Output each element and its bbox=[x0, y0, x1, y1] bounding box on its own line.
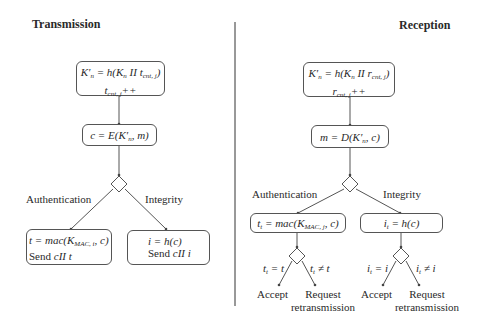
tx-hash-box: i = h(c) Send cII i bbox=[127, 230, 210, 265]
rx-auth-notequal-label: tt ≠ t bbox=[310, 262, 330, 276]
tx-mac-box: t = mac(KMAC, i, c) Send cII t bbox=[26, 229, 112, 265]
tx-encrypt-box: c = E(K′n, m) bbox=[82, 124, 157, 146]
rx-int-equal-label: it = i bbox=[367, 262, 388, 276]
rx-int-request-retransmission: Requestretransmission bbox=[392, 288, 462, 314]
rx-branch-authentication: Authentication bbox=[252, 188, 317, 200]
rx-int-notequal-label: it ≠ i bbox=[416, 262, 436, 276]
reception-title: Reception bbox=[399, 18, 450, 33]
rx-decrypt-box: m = D(K′n, c) bbox=[311, 125, 389, 148]
tx-key-derivation-box: K′n = h(Kn II tcnt, j) tcnt, j++ bbox=[76, 61, 165, 96]
tx-branch-authentication: Authentication bbox=[26, 193, 91, 205]
rx-branch-integrity: Integrity bbox=[383, 188, 421, 200]
tx-branch-integrity: Integrity bbox=[145, 193, 183, 205]
rx-mac-box: tt = mac(KMAC, j, c) bbox=[250, 213, 346, 233]
rx-auth-accept: Accept bbox=[257, 288, 288, 300]
connector-lines bbox=[0, 0, 485, 326]
rx-auth-request-retransmission: Requestretransmission bbox=[288, 288, 358, 314]
transmission-title: Transmission bbox=[32, 17, 100, 32]
rx-key-derivation-box: K′n = h(Kn II rcnt, j) rcnt, j++ bbox=[303, 62, 395, 97]
rx-auth-equal-label: tt = t bbox=[263, 262, 284, 276]
rx-int-accept: Accept bbox=[361, 288, 392, 300]
rx-hash-box: it = h(c) bbox=[360, 213, 443, 233]
